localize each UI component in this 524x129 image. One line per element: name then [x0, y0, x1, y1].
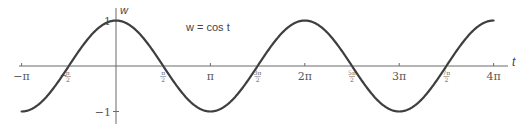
svg-text:2: 2 — [444, 76, 448, 83]
t-axis-label: t — [512, 55, 516, 69]
x-tick-label: 4π — [486, 70, 500, 83]
x-tick-label: π — [207, 70, 214, 83]
cosine-chart: −π−π2π2π3π22π5π23π7π24π 1−1 t w w = cos … — [0, 0, 524, 129]
w-axis-label: w — [120, 4, 129, 16]
svg-text:2: 2 — [161, 76, 165, 83]
equation-label: w = cos t — [185, 21, 230, 33]
svg-text:2: 2 — [256, 76, 260, 83]
svg-text:2: 2 — [66, 76, 70, 83]
svg-text:2: 2 — [350, 76, 354, 83]
x-tick-label: 2π — [298, 70, 312, 83]
y-tick-label: −1 — [95, 106, 111, 119]
axes — [19, 8, 508, 124]
x-tick-label: 3π — [392, 70, 406, 83]
x-tick-label: −π — [13, 70, 29, 83]
